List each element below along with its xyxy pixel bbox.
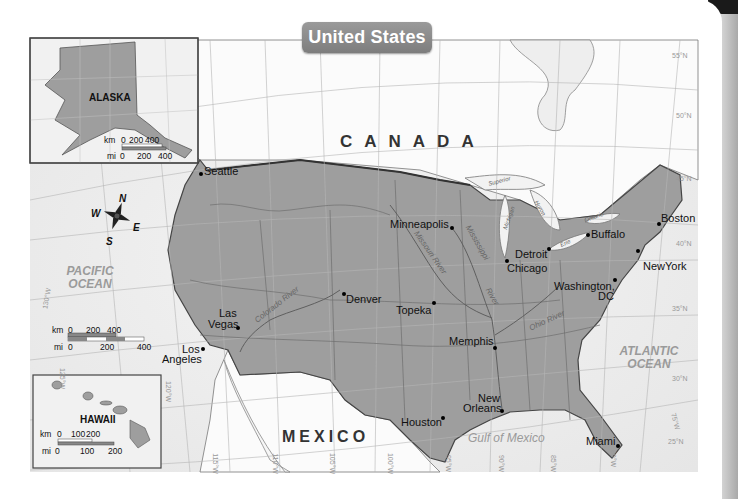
main-scale-mi-label: mi	[54, 342, 63, 352]
us-map: United States CANADA MEXICO PACIFIC OCEA…	[0, 0, 738, 499]
city-memphis: Memphis	[449, 335, 494, 347]
city-neworleans-line2: Orleans	[463, 402, 502, 414]
lon-90: 90°W	[498, 455, 505, 472]
label-pacific-ocean: PACIFIC OCEAN	[58, 265, 122, 291]
alaska-scale-mi-200: 200	[137, 151, 151, 161]
lon-100: 100°W	[387, 453, 394, 474]
label-gulf-of-mexico: Gulf of Mexico	[468, 431, 545, 445]
lon-95: 95°W	[445, 455, 452, 472]
city-buffalo: Buffalo	[591, 228, 625, 240]
city-dot-minneapolis	[450, 226, 454, 230]
lon-105: 105°W	[329, 453, 336, 474]
lon-110: 110°W	[272, 453, 279, 474]
city-dot-seattle	[199, 172, 203, 176]
inset-hawaii-name: HAWAII	[80, 414, 116, 425]
compass-w: W	[91, 208, 100, 219]
label-mexico: MEXICO	[282, 428, 369, 446]
alaska-scale-km-label: km	[104, 135, 115, 145]
city-seattle: Seattle	[204, 165, 238, 177]
compass-e: E	[133, 222, 140, 233]
main-scale-km-label: km	[52, 325, 63, 335]
alaska-scale-mi-label: mi	[107, 151, 116, 161]
alaska-scale-mi-400: 400	[158, 151, 172, 161]
compass-s: S	[106, 236, 113, 247]
city-dot-buffalo	[586, 233, 590, 237]
inset-alaska-name: ALASKA	[89, 92, 131, 103]
alaska-scale-km-400: 400	[145, 135, 159, 145]
map-title: United States	[302, 22, 432, 53]
city-chicago: Chicago	[507, 262, 547, 274]
compass-n: N	[119, 193, 126, 204]
hawaii-scale-km-0: 0	[57, 429, 62, 439]
lat-45: 45°N	[676, 175, 692, 182]
city-detroit: Detroit	[515, 248, 547, 260]
hawaii-scale-mi-0: 0	[55, 446, 60, 456]
city-topeka: Topeka	[396, 304, 431, 316]
main-scale-mi-200: 200	[100, 342, 114, 352]
alaska-scale-km-200: 200	[129, 135, 143, 145]
lat-25: 25°N	[668, 438, 684, 445]
main-scale-km-200: 200	[86, 325, 100, 335]
lat-55: 55°N	[672, 52, 688, 59]
main-scale-km-400: 400	[107, 325, 121, 335]
city-dot-newyork	[636, 249, 640, 253]
city-losangeles-line2: Angeles	[162, 353, 202, 365]
city-washington-line2: DC	[598, 290, 614, 302]
lon-120: 120°W	[165, 381, 172, 402]
lon-85: 85°W	[550, 455, 557, 472]
lat-30: 30°N	[672, 375, 688, 382]
city-miami: Miami	[586, 435, 615, 447]
city-houston: Houston	[401, 416, 442, 428]
alaska-scale-km-0: 0	[121, 135, 126, 145]
lon-115: 115°W	[212, 453, 219, 474]
alaska-scale-mi-0: 0	[120, 151, 125, 161]
city-dot-detroit	[547, 247, 551, 251]
city-dot-los-angeles	[201, 347, 205, 351]
hawaii-scale-mi-200: 200	[108, 446, 122, 456]
lon-125: 125°W	[59, 368, 66, 389]
main-scale-km-0: 0	[68, 325, 73, 335]
city-boston: Boston	[661, 212, 695, 224]
lat-40: 40°N	[676, 240, 692, 247]
label-atlantic-ocean: ATLANTIC OCEAN	[614, 345, 684, 371]
lat-35: 35°N	[672, 305, 688, 312]
hawaii-scale-km-100: 100	[71, 429, 85, 439]
label-canada: CANADA	[340, 132, 486, 152]
city-newyork: NewYork	[643, 260, 687, 272]
city-dot-miami	[616, 444, 620, 448]
lat-50: 50°N	[676, 112, 692, 119]
hawaii-scale-mi-label: mi	[42, 446, 51, 456]
hawaii-scale-km-200: 200	[86, 429, 100, 439]
city-denver: Denver	[346, 293, 381, 305]
hawaii-scale-mi-100: 100	[80, 446, 94, 456]
lon-80: 80°W	[610, 450, 617, 467]
city-dot-topeka	[432, 301, 436, 305]
main-scale-mi-400: 400	[137, 342, 151, 352]
city-lasvegas-line2: Vegas	[208, 318, 239, 330]
hawaii-scale-km-label: km	[40, 429, 51, 439]
main-scale-mi-0: 0	[68, 342, 73, 352]
